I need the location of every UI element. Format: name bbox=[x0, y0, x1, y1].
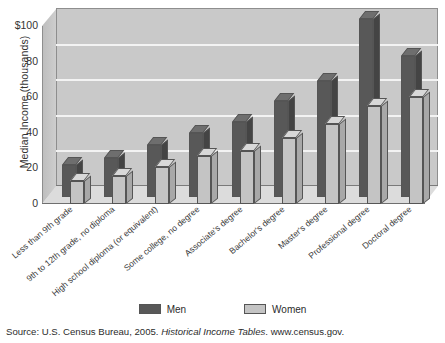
y-tick-label: 40 bbox=[26, 126, 38, 138]
bar-face bbox=[240, 151, 254, 204]
bar-side bbox=[211, 150, 218, 204]
y-tick-label: $100 bbox=[15, 19, 38, 31]
bar-side bbox=[423, 92, 430, 204]
legend-item: Men bbox=[139, 304, 186, 315]
bar-women-4 bbox=[240, 151, 254, 204]
source-note: Source: U.S. Census Bureau, 2005. Histor… bbox=[6, 326, 443, 337]
legend-item: Women bbox=[244, 304, 306, 315]
y-tick-label: 80 bbox=[26, 55, 38, 67]
bar-face bbox=[367, 106, 381, 204]
bar-face bbox=[409, 97, 423, 204]
y-tick-label: 60 bbox=[26, 90, 38, 102]
bar-side bbox=[381, 101, 388, 204]
bar-face bbox=[325, 124, 339, 204]
y-axis-tick-labels: $100806040200 bbox=[0, 0, 42, 212]
source-title: Historical Income Tables bbox=[161, 326, 265, 337]
bar-women-2 bbox=[155, 167, 169, 204]
legend-label: Women bbox=[272, 304, 306, 315]
bar-face bbox=[282, 138, 296, 204]
plot-area bbox=[42, 8, 438, 204]
bar-side bbox=[169, 161, 176, 204]
legend-label: Men bbox=[167, 304, 186, 315]
legend-swatch bbox=[244, 304, 266, 314]
bar-women-1 bbox=[112, 176, 126, 204]
bar-women-6 bbox=[325, 124, 339, 204]
bar-side bbox=[339, 118, 346, 204]
gridline bbox=[56, 79, 438, 81]
bar-face bbox=[155, 167, 169, 204]
bar-women-8 bbox=[409, 97, 423, 204]
bar-women-7 bbox=[367, 106, 381, 204]
bar-face bbox=[70, 181, 84, 204]
bar-women-5 bbox=[282, 138, 296, 204]
plot-left-wall-edge bbox=[42, 26, 43, 204]
x-axis-tick-labels: Less than 9th grade9th to 12th grade, no… bbox=[42, 204, 442, 294]
bar-side bbox=[126, 170, 133, 204]
source-suffix: . www.census.gov. bbox=[265, 326, 344, 337]
y-tick-label: 20 bbox=[26, 161, 38, 173]
legend-swatch bbox=[139, 304, 161, 314]
y-tick-label: 0 bbox=[32, 197, 38, 209]
bar-women-0 bbox=[70, 181, 84, 204]
chart-legend: MenWomen bbox=[0, 300, 445, 318]
bar-side bbox=[254, 145, 261, 204]
bar-face bbox=[112, 176, 126, 204]
x-tick-label: Some college, no degree bbox=[122, 204, 202, 273]
chart-figure: Median Income (thousands) $100806040200 … bbox=[0, 0, 445, 343]
bar-side bbox=[296, 133, 303, 204]
plot-left-wall bbox=[42, 8, 57, 204]
bar-face bbox=[197, 156, 211, 204]
source-prefix: Source: U.S. Census Bureau, 2005. bbox=[6, 326, 161, 337]
bar-women-3 bbox=[197, 156, 211, 204]
gridline bbox=[56, 44, 438, 46]
